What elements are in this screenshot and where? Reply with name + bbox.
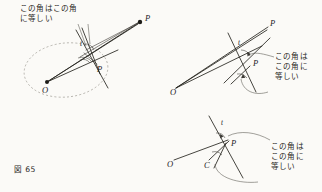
connector-b-left <box>80 22 139 57</box>
bottom-right-diagram: O C P t <box>167 116 270 182</box>
right-top-diagram: O P P t <box>170 18 275 97</box>
figure-page: O P P t <box>0 0 322 192</box>
left-diagram: O P P t <box>21 13 150 101</box>
line-below-P-righttop <box>231 66 250 84</box>
secant-left-lower <box>47 50 118 82</box>
note-leader-righttop-lower <box>241 79 268 93</box>
point-label-P-outer-righttop: P <box>269 18 275 28</box>
point-label-t-bottom: t <box>221 119 224 127</box>
point-label-C-bottom: C <box>204 160 210 170</box>
annotation-left-equal-angles: この角はこの角 に等しい <box>20 4 77 24</box>
point-label-O-left: O <box>42 85 48 95</box>
line-P-down-bottom <box>214 143 226 168</box>
tangent-line-t-left <box>76 30 108 88</box>
point-label-O-bottom: O <box>167 159 173 169</box>
point-label-P-inner-righttop: P <box>252 58 258 68</box>
point-dot-O-left <box>45 80 49 84</box>
figure-caption: 図 65 <box>14 163 36 174</box>
point-label-O-righttop: O <box>170 87 176 97</box>
angle-arrow-upper-bottom <box>220 134 224 138</box>
point-label-P-bottom: P <box>230 138 236 148</box>
note-leader-left-2 <box>88 24 90 44</box>
point-label-P-outer-left: P <box>144 13 150 23</box>
annotation-bottom-equal-angles: この角は この角に 等しい <box>271 142 304 173</box>
tangent-line-t-bottom <box>209 116 243 178</box>
point-label-P-inner-left: P <box>96 64 102 74</box>
cross-line-righttop <box>224 38 270 83</box>
point-label-t-righttop: t <box>238 39 241 47</box>
annotation-righttop-equal-angles: この角は この角に 等しい <box>275 52 308 83</box>
line-O-to-innerP-left <box>47 24 138 82</box>
point-dot-P-left <box>138 20 142 24</box>
